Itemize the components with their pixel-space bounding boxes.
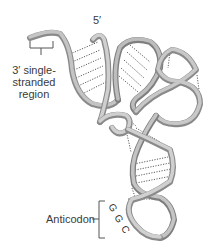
three-prime-bracket: [30, 41, 53, 55]
three-prime-label-line3: region: [3, 88, 65, 100]
three-prime-label-line1: 3′ single-: [3, 64, 65, 76]
three-prime-region-label: 3′ single- stranded region: [3, 64, 65, 100]
anticodon-label: Anticodon: [46, 213, 95, 225]
five-prime-label: 5′: [93, 14, 101, 26]
three-prime-label-line2: stranded: [3, 76, 65, 88]
